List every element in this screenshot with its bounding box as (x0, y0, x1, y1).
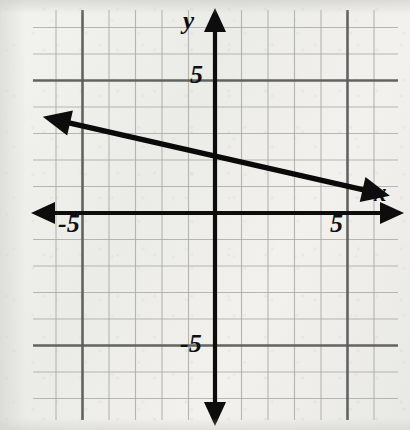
y-axis-arrow-up (204, 8, 226, 32)
x-axis-label: x (374, 180, 387, 205)
y-axis-arrow-down (204, 402, 226, 426)
x-axis-tick-label-minus5: -5 (58, 211, 80, 237)
line-arrow-start (43, 110, 73, 135)
x-axis-arrow-left (31, 202, 55, 224)
x-axis-tick-label-5: 5 (330, 211, 343, 237)
y-axis-tick-label-minus5: -5 (180, 331, 202, 357)
y-axis-tick-label-5: 5 (190, 62, 203, 88)
graph-image: y x 5 -5 -5 5 (0, 0, 410, 430)
y-axis-label: y (183, 8, 194, 33)
